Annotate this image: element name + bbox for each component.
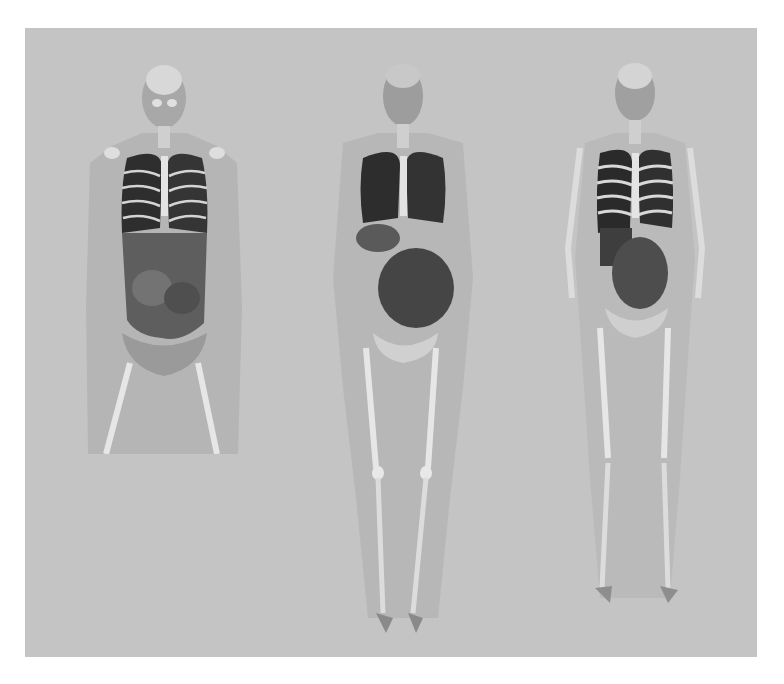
- full-body-model-heavy: [328, 58, 478, 633]
- torso-model: [82, 58, 247, 454]
- image-panel: [25, 28, 757, 657]
- full-body-model-slim: [560, 58, 710, 603]
